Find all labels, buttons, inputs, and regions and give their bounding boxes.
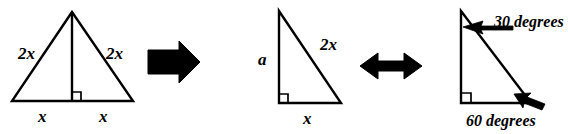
label-right-triangle-vertical-leg: a	[258, 51, 267, 68]
right-angle-marker-panel2	[279, 94, 288, 103]
pointer-arrow-60-icon	[514, 93, 545, 110]
left-right-arrow-shape	[360, 53, 422, 79]
right-angle-marker-panel3	[461, 93, 471, 103]
label-right-triangle-hypotenuse: 2x	[320, 36, 337, 53]
math-figure: 2x 2x x x a 2x x 30 degrees 60 degrees	[0, 0, 568, 134]
label-right-triangle-horizontal-leg: x	[303, 110, 312, 127]
label-angle-60-degrees: 60 degrees	[466, 113, 536, 129]
label-equilateral-base-left: x	[38, 108, 47, 125]
right-angle-marker-panel1	[72, 92, 81, 101]
left-right-arrow-icon	[360, 53, 422, 79]
right-arrow-shape	[148, 41, 200, 83]
right-arrow-icon	[148, 41, 200, 83]
right-triangle-sides-outline	[279, 11, 341, 103]
label-angle-30-degrees: 30 degrees	[494, 14, 564, 30]
pointer-arrow-60-shape	[514, 93, 545, 110]
label-equilateral-left-side: 2x	[18, 45, 35, 62]
right-triangle-sides-shape	[279, 11, 341, 103]
label-equilateral-right-side: 2x	[106, 45, 123, 62]
label-equilateral-base-right: x	[99, 108, 108, 125]
